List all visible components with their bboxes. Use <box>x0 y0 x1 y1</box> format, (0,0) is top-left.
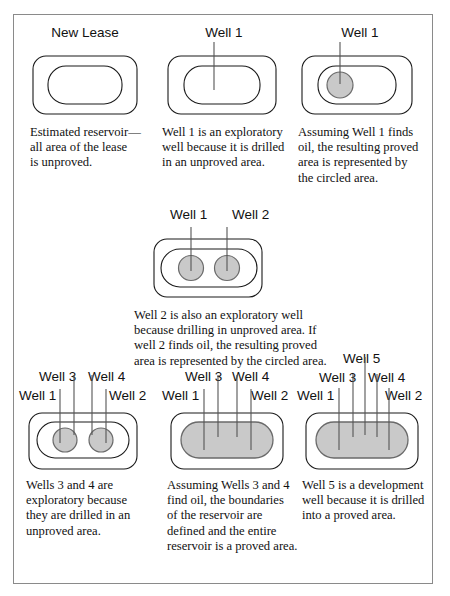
label-well-2: Well 2 <box>109 388 146 403</box>
caption-line: Estimated reservoir— <box>30 125 150 140</box>
label-well-3: Well 3 <box>185 369 222 384</box>
proved-area-well-1 <box>53 428 77 452</box>
label-well-3: Well 3 <box>319 370 356 385</box>
panel-wells-3-4-exploratory-caption: Wells 3 and 4 are exploratory because th… <box>18 478 153 539</box>
lease-svg <box>159 405 304 473</box>
lease-diagram-wells-3-4-exploratory <box>18 405 153 473</box>
caption-line: into a proved area. <box>302 508 436 523</box>
label-well-4: Well 4 <box>232 369 269 384</box>
label-well-2: Well 2 <box>232 207 269 222</box>
label-well-1: Well 1 <box>19 388 56 403</box>
reservoir-boundary <box>184 66 260 104</box>
caption-line: Assuming Well 1 finds <box>298 125 430 140</box>
proved-reservoir-area <box>181 422 273 458</box>
lease-svg <box>20 54 150 116</box>
caption-line: oil, the resulting proved <box>298 140 430 155</box>
caption-line: they are drilled in an <box>26 508 153 523</box>
lease-svg <box>154 40 294 116</box>
panel-well-5-development: Well 5 Well 3 Well 4 Well 1 Well 2 Well … <box>296 351 436 524</box>
caption-line: reservoir is a proved area. <box>167 539 304 554</box>
label-well-5: Well 5 <box>343 351 380 366</box>
panel-new-lease-caption: Estimated reservoir— all area of the lea… <box>20 125 150 171</box>
caption-line: of the reservoir are <box>167 508 304 523</box>
caption-line: because drilling in unproved area. If <box>134 323 384 338</box>
caption-line: well because it is drilled <box>302 493 436 508</box>
caption-line: is unproved. <box>30 155 150 170</box>
figure-frame: New Lease Estimated reservoir— all area … <box>13 14 433 584</box>
panel-wells-3-4-exploratory-labels: Well 3 Well 4 Well 1 Well 2 <box>18 369 153 405</box>
lease-diagram-new-lease <box>20 54 150 116</box>
label-well-3: Well 3 <box>39 369 76 384</box>
label-well-1: Well 1 <box>297 388 334 403</box>
lease-diagram-well-1-exploratory <box>154 40 294 116</box>
label-well-1: Well 1 <box>162 388 199 403</box>
panel-well-2-proved: Well 1 Well 2 Well 2 is also an explorat… <box>134 207 384 369</box>
proved-reservoir-area <box>316 422 408 458</box>
lease-svg <box>18 405 153 473</box>
lease-diagram-well-1-proved <box>290 40 430 116</box>
caption-line: Assuming Wells 3 and 4 <box>167 478 304 493</box>
reservoir-boundary <box>161 249 257 287</box>
lease-svg <box>134 225 384 301</box>
label-well-2: Well 2 <box>251 388 288 403</box>
reservoir-boundary <box>37 422 129 458</box>
panel-well-1-proved-title: Well 1 <box>290 25 430 40</box>
caption-line: exploratory because <box>26 493 153 508</box>
panel-wells-3-4-proved-labels: Well 3 Well 4 Well 1 Well 2 <box>159 369 304 405</box>
panel-well-2-proved-labels: Well 1 Well 2 <box>134 207 384 225</box>
lease-svg <box>296 405 436 473</box>
caption-line: the circled area. <box>298 171 430 186</box>
caption-line: well because it is drilled <box>162 140 294 155</box>
panel-new-lease-title: New Lease <box>20 25 150 40</box>
caption-line: Well 2 is also an exploratory well <box>134 308 384 323</box>
lease-diagram-well-2-proved <box>134 225 384 301</box>
caption-line: Well 5 is a development <box>302 478 436 493</box>
panel-well-1-exploratory: Well 1 Well 1 is an exploratory well bec… <box>154 25 294 171</box>
caption-line: defined and the entire <box>167 524 304 539</box>
panel-well-5-development-labels: Well 5 Well 3 Well 4 Well 1 Well 2 <box>296 351 436 405</box>
lease-diagram-well-5-development <box>296 405 436 473</box>
caption-line: Well 1 is an exploratory <box>162 125 294 140</box>
caption-line: Wells 3 and 4 are <box>26 478 153 493</box>
label-well-2: Well 2 <box>385 388 422 403</box>
label-well-4: Well 4 <box>88 369 125 384</box>
label-well-4: Well 4 <box>368 370 405 385</box>
panel-wells-3-4-exploratory: Well 3 Well 4 Well 1 Well 2 Wells 3 and … <box>18 369 153 539</box>
panel-wells-3-4-proved: Well 3 Well 4 Well 1 Well 2 Assuming Wel… <box>159 369 304 554</box>
caption-line: area is represented by <box>298 155 430 170</box>
label-well-1: Well 1 <box>170 207 207 222</box>
panel-well-5-development-caption: Well 5 is a development well because it … <box>296 478 436 524</box>
reservoir-boundary <box>48 66 122 104</box>
lease-svg <box>290 40 430 116</box>
lease-diagram-wells-3-4-proved <box>159 405 304 473</box>
caption-line: all area of the lease <box>30 140 150 155</box>
proved-area-well-2 <box>89 428 113 452</box>
panel-well-1-exploratory-caption: Well 1 is an exploratory well because it… <box>154 125 294 171</box>
panel-well-1-exploratory-title: Well 1 <box>154 25 294 40</box>
panel-well-1-proved: Well 1 Assuming Well 1 finds oil, the re… <box>290 25 430 186</box>
caption-line: in an unproved area. <box>162 155 294 170</box>
caption-line: unproved area. <box>26 524 153 539</box>
panel-well-1-proved-caption: Assuming Well 1 finds oil, the resulting… <box>290 125 430 186</box>
panel-wells-3-4-proved-caption: Assuming Wells 3 and 4 find oil, the bou… <box>159 478 304 554</box>
panel-new-lease: New Lease Estimated reservoir— all area … <box>20 25 150 171</box>
caption-line: find oil, the boundaries <box>167 493 304 508</box>
